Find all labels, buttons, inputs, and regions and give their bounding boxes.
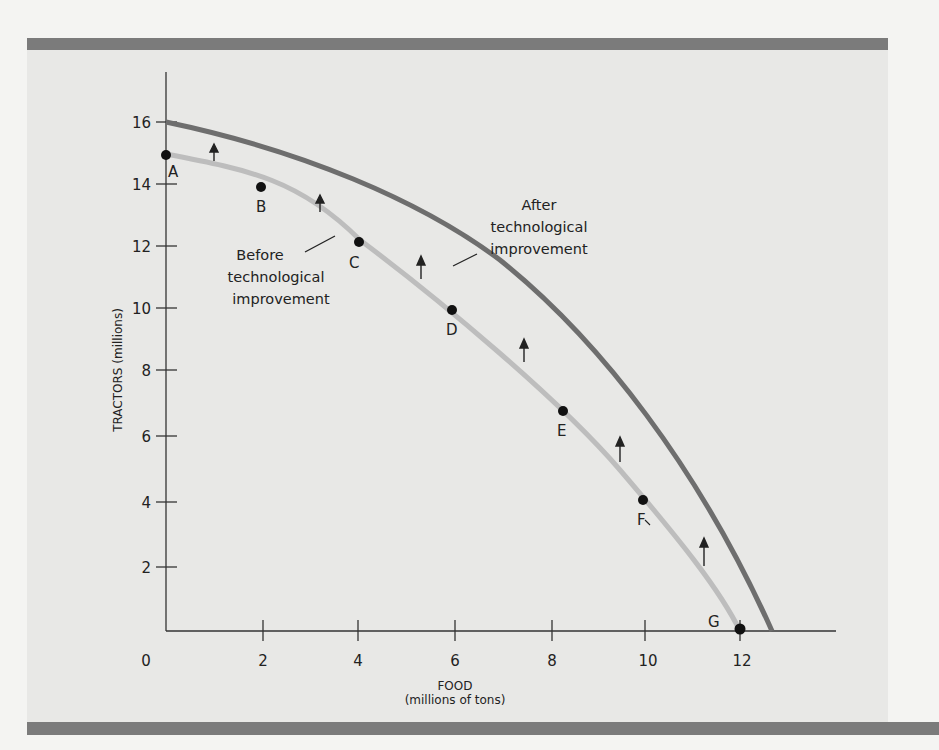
svg-text:C: C [349,254,359,272]
svg-text:Before: Before [236,247,283,263]
point-labels: A B C D E F G [168,163,720,631]
svg-text:B: B [256,198,266,216]
svg-text:14: 14 [132,176,151,194]
up-arrow-icon [210,144,218,161]
svg-text:6: 6 [450,652,460,670]
svg-text:12: 12 [732,652,751,670]
svg-text:E: E [557,422,566,440]
svg-text:6: 6 [141,428,151,446]
up-arrow-icon [520,339,528,362]
after-annotation: After technological improvement [453,197,588,266]
x-axis-subtitle: (millions of tons) [405,693,506,707]
point-e [558,406,568,416]
svg-text:8: 8 [547,652,557,670]
svg-text:2: 2 [141,559,151,577]
y-axis-title: TRACTORS (millions) [111,308,125,433]
point-b [256,182,266,192]
x-tick-labels: 0 2 4 6 8 10 12 [141,652,751,670]
y-tick-labels: 2 4 6 8 10 12 14 16 [132,114,151,577]
ppf-chart: 2 4 6 8 10 12 14 16 0 2 4 6 8 10 12 FOOD… [0,0,939,750]
svg-text:2: 2 [258,652,268,670]
svg-text:improvement: improvement [490,241,588,257]
leader-line [305,236,335,252]
point-g [735,624,746,635]
up-arrow-icon [700,538,708,566]
svg-text:technological: technological [228,269,325,285]
svg-text:D: D [446,321,458,339]
before-improvement-curve [166,154,740,631]
svg-text:10: 10 [638,652,657,670]
point-f [638,495,648,505]
svg-text:4: 4 [141,494,151,512]
svg-text:A: A [168,163,179,181]
svg-text:After: After [522,197,557,213]
before-annotation: Before technological improvement [228,236,335,307]
svg-text:12: 12 [132,238,151,256]
stray-mark [645,520,650,525]
svg-text:10: 10 [132,300,151,318]
svg-text:8: 8 [141,362,151,380]
svg-text:4: 4 [353,652,363,670]
up-arrow-icon [616,437,624,462]
svg-text:0: 0 [141,652,151,670]
point-c [354,237,364,247]
point-a [161,150,171,160]
svg-text:16: 16 [132,114,151,132]
svg-text:technological: technological [491,219,588,235]
point-d [447,305,457,315]
svg-text:improvement: improvement [232,291,330,307]
svg-text:F: F [637,511,646,529]
leader-line [453,254,477,266]
x-axis-title: FOOD [437,679,472,693]
svg-text:G: G [708,613,720,631]
up-arrow-icon [417,256,425,279]
shift-arrows [210,144,708,566]
production-points [161,150,746,635]
